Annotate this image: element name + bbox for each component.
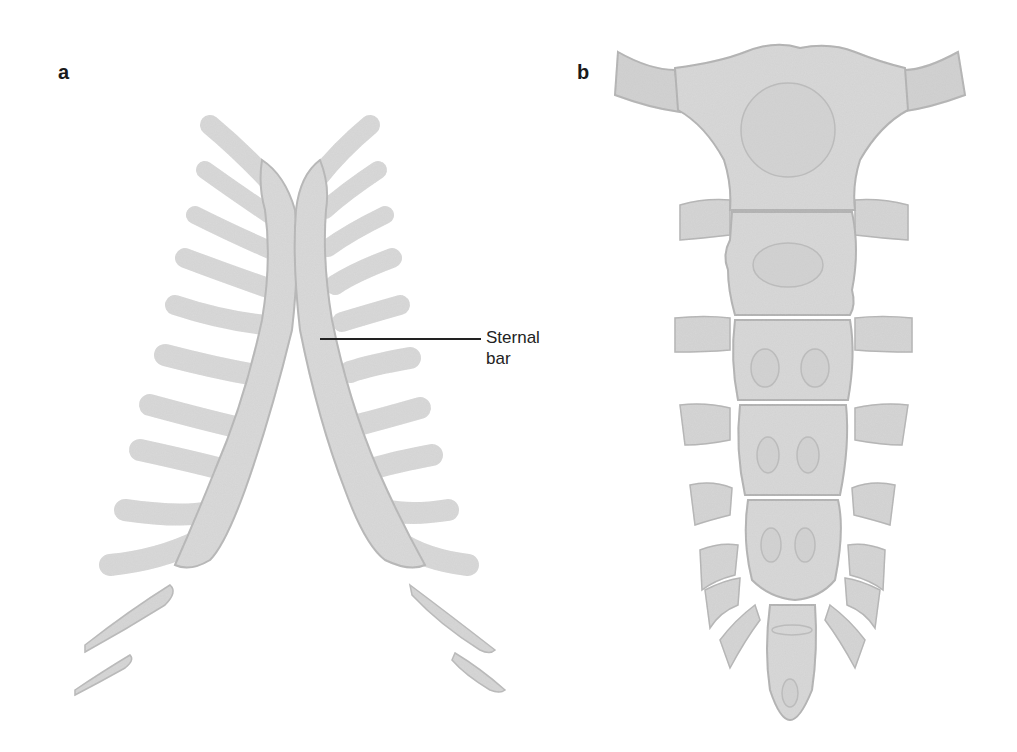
sternebra-2 <box>733 320 852 400</box>
panel-b-sternum <box>615 45 965 720</box>
xiphoid-ossification-center <box>782 679 798 707</box>
sternebra-2-ossification-center-right <box>801 349 829 387</box>
right-clavicle-stub <box>900 52 965 112</box>
sternal-bar-label-line1: Sternal <box>486 327 540 348</box>
right-floating-rib-1 <box>410 585 495 653</box>
sternal-bar-label-line2: bar <box>486 348 540 369</box>
panel-a-sternal-bars <box>75 125 505 695</box>
sternebra-4-ossification-center-right <box>795 528 815 562</box>
right-ribs <box>318 125 468 565</box>
sternebra-3 <box>738 405 847 495</box>
sternal-bar-label: Sternal bar <box>486 327 540 369</box>
right-floating-rib-2 <box>452 653 505 692</box>
sternebra-1-ossification-center <box>753 243 823 287</box>
sternebra-4-ossification-center-left <box>761 528 781 562</box>
manubrium-ossification-center <box>741 83 835 177</box>
sternebra-3-ossification-center-left <box>757 437 779 473</box>
sternebra-4 <box>746 500 841 600</box>
sternebra-3-ossification-center-right <box>797 437 819 473</box>
left-ribs <box>110 125 270 565</box>
sternebra-2-ossification-center-left <box>751 349 779 387</box>
left-floating-rib-1 <box>85 585 173 652</box>
left-floating-rib-2 <box>75 655 132 695</box>
anatomical-figure <box>0 0 1017 752</box>
